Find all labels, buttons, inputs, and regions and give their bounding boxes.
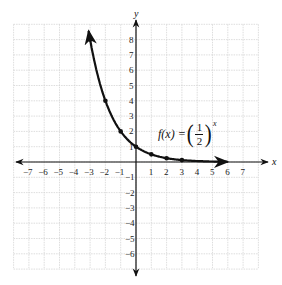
data-point — [134, 144, 139, 149]
y-tick-label: −5 — [125, 234, 135, 244]
exponential-graph: xy−7−6−5−4−3−2−1123456712345678−1−2−3−4−… — [0, 0, 282, 285]
y-tick-label: 6 — [129, 65, 134, 75]
data-point — [118, 129, 123, 134]
y-tick-label: 7 — [129, 50, 134, 60]
x-tick-label: 2 — [164, 167, 169, 177]
x-tick-label: −2 — [99, 167, 109, 177]
y-tick-label: −4 — [125, 218, 135, 228]
y-tick-label: 3 — [129, 111, 134, 121]
right-paren: ) — [205, 121, 212, 147]
y-tick-label: 2 — [129, 126, 134, 136]
y-tick-label: −1 — [125, 172, 135, 182]
numerator: 1 — [197, 122, 203, 133]
data-point — [180, 158, 185, 163]
x-tick-label: 6 — [225, 167, 230, 177]
y-tick-label: 4 — [129, 96, 134, 106]
x-tick-label: 1 — [149, 167, 154, 177]
x-tick-label: 7 — [241, 167, 246, 177]
x-tick-label: −3 — [84, 167, 94, 177]
exponent: x — [213, 119, 217, 128]
x-tick-label: 5 — [210, 167, 215, 177]
denominator: 2 — [197, 136, 203, 147]
equation-lhs: f(x) = — [158, 127, 186, 142]
x-tick-label: −5 — [54, 167, 64, 177]
function-label: f(x) = ( 1 2 ) x — [158, 121, 217, 147]
data-point — [103, 99, 108, 104]
y-tick-label: −6 — [125, 249, 135, 259]
x-axis-label: x — [271, 156, 277, 167]
y-tick-label: −3 — [125, 203, 135, 213]
x-tick-label: 4 — [195, 167, 200, 177]
x-tick-label: −7 — [23, 167, 33, 177]
y-tick-label: 5 — [129, 81, 134, 91]
x-tick-label: −1 — [115, 167, 125, 177]
left-paren: ( — [187, 121, 194, 147]
y-tick-label: −2 — [125, 188, 135, 198]
data-point — [88, 37, 93, 42]
data-point — [164, 156, 169, 161]
x-tick-label: −6 — [38, 167, 48, 177]
x-tick-label: 3 — [179, 167, 184, 177]
fraction: 1 2 — [195, 122, 203, 147]
y-axis-label: y — [133, 8, 139, 19]
data-point — [149, 152, 154, 157]
y-tick-label: 8 — [129, 35, 134, 45]
x-tick-label: −4 — [69, 167, 79, 177]
